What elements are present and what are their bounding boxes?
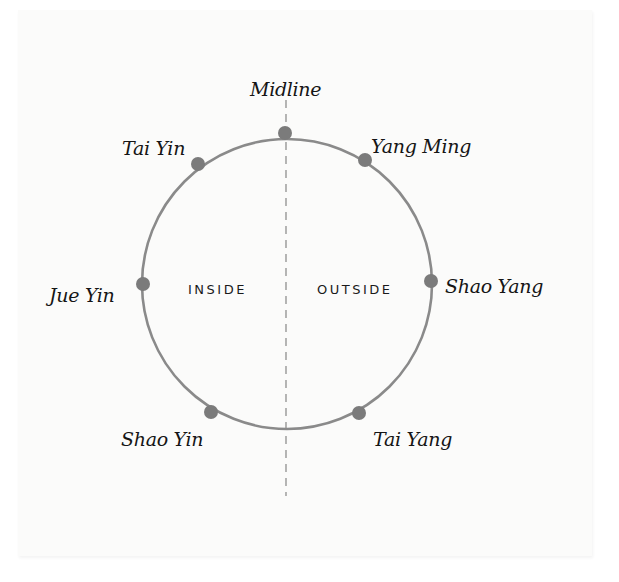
region-inside-label: INSIDE [188, 282, 247, 297]
node-dot-jue-yin [136, 277, 150, 291]
node-dot-tai-yang [352, 406, 366, 420]
label-jue-yin: Jue Yin [45, 284, 115, 306]
label-tai-yang: Tai Yang [373, 428, 452, 450]
label-tai-yin: Tai Yin [122, 137, 185, 159]
node-dot-tai-yin [191, 157, 205, 171]
label-yang-ming: Yang Ming [371, 135, 471, 157]
node-dot-shao-yin [204, 405, 218, 419]
channel-diagram: Midline Tai Yin Yang Ming Jue Yin Shao Y… [0, 0, 619, 582]
node-dot-top [278, 126, 292, 140]
label-shao-yang: Shao Yang [445, 275, 543, 297]
label-shao-yin: Shao Yin [121, 428, 203, 450]
region-outside-label: OUTSIDE [317, 282, 393, 297]
node-dot-shao-yang [424, 274, 438, 288]
node-dot-yang-ming [358, 153, 372, 167]
midline-label: Midline [249, 78, 321, 100]
